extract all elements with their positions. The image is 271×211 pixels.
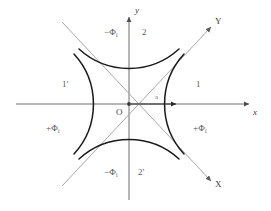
X-rotated-axis-label: X: [215, 180, 222, 189]
quadrupole-axes-diagram: x y Y X O a 1 1' 2 2' +Φi +Φi −Φi −Φi: [0, 0, 271, 211]
potential-bottom-subscript: i: [116, 172, 118, 178]
region-label-top: 2: [142, 28, 147, 37]
region-label-right: 1: [196, 80, 201, 89]
inscribed-radius-label: a: [155, 94, 158, 101]
origin-label: O: [116, 108, 123, 117]
diagram-canvas: [0, 0, 271, 211]
potential-label-left: +Φi: [46, 124, 60, 134]
X-axis-diagonal-line: [62, 22, 211, 181]
potential-label-bottom: −Φi: [104, 168, 118, 178]
region-label-bottom: 2': [138, 168, 145, 177]
y-axis-label: y: [135, 6, 139, 15]
origin-dot: [127, 102, 131, 106]
potential-label-top: −Φi: [104, 28, 118, 38]
potential-left-subscript: i: [58, 128, 60, 134]
Y-axis-diagonal-line: [62, 27, 211, 186]
x-axis-label: x: [253, 108, 257, 117]
potential-top-subscript: i: [116, 32, 118, 38]
region-label-left: 1': [62, 80, 69, 89]
Y-rotated-axis-label: Y: [215, 17, 222, 26]
potential-right-subscript: i: [205, 128, 207, 134]
potential-label-right: +Φi: [193, 124, 207, 134]
cartesian-axes: [16, 17, 249, 200]
